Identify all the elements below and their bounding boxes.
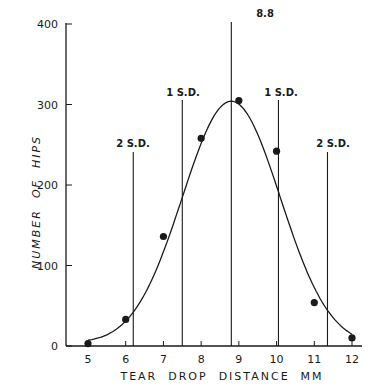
x-tick-label: 9 [235,353,242,366]
y-tick-label: 0 [51,340,58,353]
y-tick-label: 300 [37,99,58,112]
axes: 010020030040056789101112 [37,18,362,366]
x-axis-title: TEAR DROP DISTANCE MM [119,370,323,383]
data-point [273,148,280,155]
data-point [235,97,242,104]
sd2-left-label: 2 S.D. [116,138,150,149]
x-tick-label: 6 [122,353,129,366]
sd-reference-lines [133,22,327,346]
x-tick-label: 10 [270,353,284,366]
data-point [160,233,167,240]
sd2-right-label: 2 S.D. [316,138,350,149]
sd1-right-label: 1 S.D. [264,87,298,98]
data-point [84,340,91,347]
x-tick-label: 7 [160,353,167,366]
data-point [348,334,355,341]
mean-label: 8.8 [256,8,274,19]
y-tick-label: 400 [37,18,58,31]
x-tick-label: 5 [85,353,92,366]
data-point [122,316,129,323]
tear-drop-distance-chart: 010020030040056789101112 TEAR DROP DISTA… [0,0,381,392]
y-axis-title: NUMBER OF HIPS [30,135,43,269]
x-tick-label: 11 [307,353,321,366]
x-tick-label: 8 [198,353,205,366]
x-tick-label: 12 [345,353,359,366]
data-point [198,135,205,142]
data-points [84,97,355,347]
sd1-left-label: 1 S.D. [166,87,200,98]
data-point [311,299,318,306]
